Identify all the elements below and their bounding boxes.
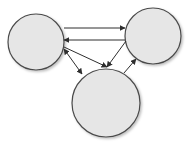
graph-diagram bbox=[0, 0, 191, 144]
node-c-bottom bbox=[72, 69, 140, 137]
edge-c-to-b-arrow bbox=[124, 59, 136, 73]
edge-a-to-c-arrow bbox=[64, 47, 107, 67]
nodes-layer bbox=[8, 8, 181, 137]
edge-a-to-c-bidirectional-arrow bbox=[64, 49, 82, 74]
edge-b-to-c-arrow bbox=[107, 41, 126, 67]
node-b-right bbox=[125, 8, 181, 64]
node-a-left bbox=[8, 14, 64, 70]
